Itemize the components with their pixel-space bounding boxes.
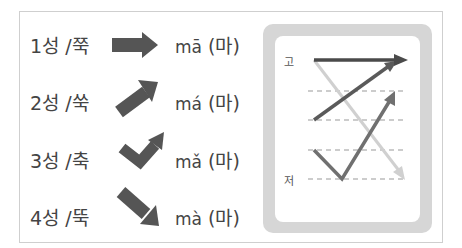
tone3-contour <box>314 91 395 179</box>
pitch-contours <box>0 0 462 248</box>
pitch-gridlines <box>308 91 406 179</box>
